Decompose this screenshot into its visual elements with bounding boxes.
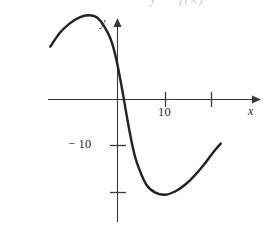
x-axis-label: x bbox=[248, 105, 253, 117]
y-axis-label: y bbox=[100, 16, 105, 28]
graph-canvas bbox=[0, 0, 278, 226]
x-axis bbox=[48, 92, 261, 107]
x-axis-tick-label-10: 10 bbox=[158, 106, 171, 119]
y-axis-tick-label-negative-10: − 10 bbox=[68, 138, 91, 151]
x-axis-arrow-icon bbox=[252, 96, 261, 104]
function-curve bbox=[50, 15, 220, 194]
graph-figure: y = f(x) y x 10 − 10 bbox=[0, 0, 278, 226]
y-axis-arrow-icon bbox=[114, 18, 122, 27]
